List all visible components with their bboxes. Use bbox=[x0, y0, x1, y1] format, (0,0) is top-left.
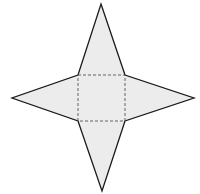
net-outline bbox=[12, 4, 194, 191]
pyramid-net-diagram bbox=[0, 0, 200, 194]
